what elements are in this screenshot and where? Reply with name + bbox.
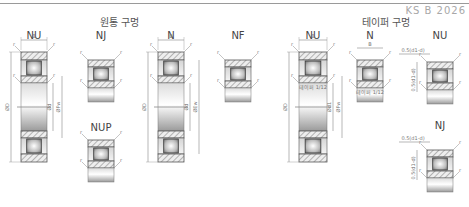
bearing-n-cyl-width-label: B xyxy=(169,33,173,39)
bearing-nu-cyl-roller-top xyxy=(27,61,42,75)
bearing-nu-tap-race-label: ØFw xyxy=(335,102,341,113)
bearing-nu-cyl-chamfer-label-1: r xyxy=(53,41,56,47)
bearing-nu-tap-inner-ring-top xyxy=(299,76,327,83)
bearing-nup-cyl-roller xyxy=(94,148,109,160)
bearing-n-cyl-roller-bottom xyxy=(164,139,179,153)
bearing-nu-cyl-width-label: B xyxy=(32,33,36,39)
bearing-nf-cyl-inner-ring xyxy=(225,81,251,88)
bearing-nu-cyl-od-label: ØD xyxy=(4,103,10,111)
bearing-nf-cyl-roller xyxy=(231,68,246,80)
bearing-nu-cyl-chamfer-label-2: r xyxy=(13,72,16,78)
bearing-nu-tap-2-chamfer-label-1: r xyxy=(459,51,462,57)
bearing-nj-cyl-chamfer-label-0: r xyxy=(80,49,83,55)
bearing-n-tap-chamfer-label-3: r xyxy=(389,77,392,83)
bearing-n-cyl-chamfer-leader-0 xyxy=(152,46,158,52)
bearing-n-tap-taper-label: 테이퍼 1/12 xyxy=(356,89,384,96)
bearing-nu-cyl-race-label: ØFw xyxy=(55,102,61,113)
bearing-n-tap-inner-ring xyxy=(357,81,383,88)
bearing-nu-tap-od-label: ØD xyxy=(282,103,288,111)
bearing-nu-tap-inner-ring-bottom xyxy=(299,131,327,138)
bearing-nf-cyl-chamfer-label-2: r xyxy=(217,77,220,83)
bearing-nu-tap-2-offset-label-v: 0.5(d1-d) xyxy=(410,68,416,91)
bearing-n-cyl-chamfer-label-1: r xyxy=(190,41,193,47)
bearing-nj-tap-offset-label-h: 0.5(d1-d) xyxy=(401,135,424,141)
bearing-n-cyl-outer-ring-top xyxy=(158,52,184,60)
bearing-nu-cyl-outer-ring-top xyxy=(21,52,47,60)
bearing-nu-cyl-bore-label: Ød xyxy=(46,103,52,110)
bearing-n-cyl-outer-ring-bottom xyxy=(158,154,184,162)
bearing-nf-cyl-chamfer-label-1: r xyxy=(257,49,260,55)
bearing-nup-cyl-bore xyxy=(88,168,114,182)
bearing-nu-cyl-chamfer-leader-0 xyxy=(15,46,21,52)
bearing-nj-tap-chamfer-label-2: r xyxy=(419,167,422,173)
bearing-nup-cyl-inner-ring xyxy=(88,161,114,168)
bearing-nu-tap-2-outer-ring xyxy=(427,62,453,69)
bearing-nu-tap-chamfer-label-3: r xyxy=(333,72,336,78)
bearing-nu-cyl-inner-ring-bottom xyxy=(21,131,47,138)
bearing-n-cyl-race-label: ØEw xyxy=(192,101,198,112)
bearing-nu-tap-taper-label: 테이퍼 1/12 xyxy=(299,84,327,91)
bearing-n-cyl-inner-ring-bottom xyxy=(158,131,184,138)
bearing-nup-cyl-outer-ring xyxy=(88,140,114,147)
bearing-drawings: rrrrBØDØdØFwrrrrrrrrrrrrBØDØdØEwrrrrrrrr… xyxy=(0,0,469,207)
bearing-nup-cyl-chamfer-label-0: r xyxy=(80,129,83,135)
bearing-nj-cyl-chamfer-label-2: r xyxy=(80,77,83,83)
bearing-nj-tap-chamfer-label-3: r xyxy=(459,167,462,173)
bearing-nu-tap-chamfer-leader-0 xyxy=(293,46,299,52)
bearing-nup-cyl-chamfer-label-3: r xyxy=(120,157,123,163)
bearing-nu-tap-width-label: B xyxy=(311,33,315,39)
bearing-nu-cyl-roller-bottom xyxy=(27,139,42,153)
bearing-nu-tap-bore-label: Ød1 xyxy=(326,102,332,112)
bearing-nj-cyl-chamfer-label-1: r xyxy=(120,49,123,55)
bearing-n-tap-outer-ring xyxy=(357,60,383,67)
bearing-n-cyl-bore-label: Ød xyxy=(183,103,189,110)
bearing-nj-cyl-outer-ring xyxy=(88,60,114,67)
bearing-n-tap-chamfer-label-2: r xyxy=(349,77,352,83)
bearing-nu-tap-chamfer-leader-2 xyxy=(293,77,299,83)
bearing-nu-tap-outer-ring-top xyxy=(299,52,327,60)
bearing-nj-tap-offset-label-v: 0.5(d1-d) xyxy=(410,156,416,179)
bearing-nf-cyl-chamfer-leader-2 xyxy=(219,82,225,88)
bearing-nu-tap-chamfer-label-2: r xyxy=(291,72,294,78)
bearing-nu-tap-2-chamfer-label-2: r xyxy=(419,79,422,85)
bearing-nj-tap-chamfer-label-1: r xyxy=(459,139,462,145)
bearing-nup-cyl-chamfer-leader-2 xyxy=(82,162,88,168)
bearing-nf-cyl-chamfer-label-0: r xyxy=(217,49,220,55)
bearing-n-tap-roller xyxy=(363,68,378,80)
bearing-nu-cyl-chamfer-label-3: r xyxy=(53,72,56,78)
bearing-nu-tap-2-chamfer-label-3: r xyxy=(459,79,462,85)
bearing-nu-tap-2-offset-label-h: 0.5(d1-d) xyxy=(401,47,424,53)
bearing-nu-tap-roller-bottom xyxy=(305,139,321,153)
bearing-nj-tap-chamfer-leader-0 xyxy=(421,144,427,150)
bearing-n-cyl-inner-ring-top xyxy=(158,76,184,83)
bearing-nf-cyl-chamfer-label-3: r xyxy=(257,77,260,83)
bearing-nj-cyl-inner-ring xyxy=(88,81,114,88)
bearing-n-tap-chamfer-leader-2 xyxy=(351,82,357,88)
bearing-nj-tap-chamfer-leader-2 xyxy=(421,172,427,178)
bearing-nu-tap-2-bore xyxy=(427,90,453,104)
bearing-nu-tap-2-inner-ring xyxy=(427,83,453,90)
bearing-nu-cyl-outer-ring-bottom xyxy=(21,154,47,162)
bearing-nj-cyl-chamfer-label-3: r xyxy=(120,77,123,83)
bearing-nup-cyl-chamfer-leader-0 xyxy=(82,134,88,140)
bearing-nj-tap-inner-ring xyxy=(427,171,453,178)
bearing-n-tap-chamfer-label-0: r xyxy=(349,49,352,55)
bearing-nu-tap-2-roller xyxy=(433,70,448,82)
bearing-nu-cyl-inner-ring-top xyxy=(21,76,47,83)
bearing-nu-tap-chamfer-label-0: r xyxy=(291,41,294,47)
bearing-n-tap-width-label: B xyxy=(368,41,372,47)
bearing-n-cyl-roller-top xyxy=(164,61,179,75)
bearing-nu-cyl-chamfer-label-0: r xyxy=(13,41,16,47)
bearing-n-cyl-chamfer-leader-2 xyxy=(152,77,158,83)
bearing-nj-tap-bore xyxy=(427,178,453,192)
bearing-n-cyl-chamfer-label-2: r xyxy=(150,72,153,78)
bearing-nf-cyl-outer-ring xyxy=(225,60,251,67)
bearing-n-cyl-od-label: ØD xyxy=(141,103,147,111)
bearing-nj-cyl-chamfer-leader-0 xyxy=(82,54,88,60)
bearing-nup-cyl-chamfer-label-2: r xyxy=(80,157,83,163)
bearing-nu-tap-outer-ring-bottom xyxy=(299,154,327,162)
bearing-n-cyl-chamfer-label-3: r xyxy=(190,72,193,78)
bearing-nup-cyl-chamfer-label-1: r xyxy=(120,129,123,135)
bearing-nf-cyl-chamfer-leader-0 xyxy=(219,54,225,60)
bearing-nj-tap-outer-ring xyxy=(427,150,453,157)
